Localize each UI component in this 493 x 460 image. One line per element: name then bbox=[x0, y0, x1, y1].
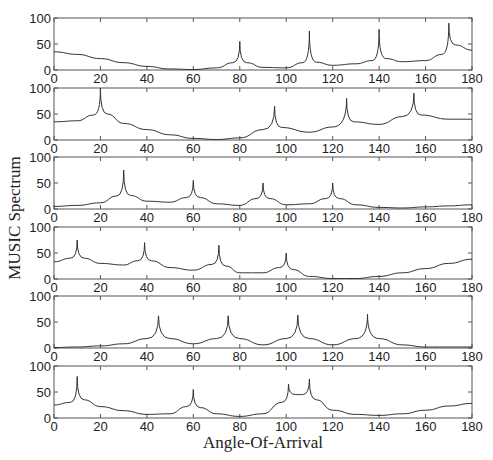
x-tick-label: 0 bbox=[50, 419, 57, 434]
y-tick-label: 50 bbox=[37, 246, 51, 261]
x-tick-label: 20 bbox=[93, 71, 107, 86]
y-axis-label: MUSIC Spectrum bbox=[5, 156, 24, 279]
x-tick-label: 180 bbox=[461, 71, 483, 86]
x-tick-label: 100 bbox=[275, 71, 297, 86]
y-tick-label: 100 bbox=[29, 81, 51, 96]
x-axis-label: Angle-Of-Arrival bbox=[203, 433, 323, 452]
subplot-1: 020406080100120140160180050100 bbox=[29, 11, 483, 86]
subplots: 0204060801001201401601800501000204060801… bbox=[29, 11, 483, 434]
x-tick-label: 180 bbox=[461, 419, 483, 434]
plot-frame bbox=[54, 296, 472, 348]
subplot-4: 020406080100120140160180050100 bbox=[29, 220, 483, 295]
x-tick-label: 140 bbox=[368, 280, 390, 295]
y-tick-label: 0 bbox=[44, 63, 51, 78]
x-tick-label: 80 bbox=[233, 210, 247, 225]
x-tick-label: 0 bbox=[50, 141, 57, 156]
spectrum-curve bbox=[54, 376, 472, 416]
x-tick-label: 140 bbox=[368, 141, 390, 156]
x-tick-label: 20 bbox=[93, 280, 107, 295]
x-tick-label: 180 bbox=[461, 210, 483, 225]
x-tick-label: 60 bbox=[186, 71, 200, 86]
x-tick-label: 160 bbox=[415, 141, 437, 156]
y-tick-label: 0 bbox=[44, 202, 51, 217]
x-tick-label: 140 bbox=[368, 210, 390, 225]
y-tick-label: 100 bbox=[29, 220, 51, 235]
x-tick-label: 160 bbox=[415, 349, 437, 364]
x-tick-label: 160 bbox=[415, 71, 437, 86]
x-tick-label: 180 bbox=[461, 141, 483, 156]
x-tick-label: 40 bbox=[140, 210, 154, 225]
plot-frame bbox=[54, 227, 472, 279]
x-tick-label: 20 bbox=[93, 419, 107, 434]
spectrum-curve bbox=[54, 314, 472, 347]
x-tick-label: 0 bbox=[50, 280, 57, 295]
x-tick-label: 0 bbox=[50, 71, 57, 86]
x-tick-label: 160 bbox=[415, 419, 437, 434]
x-tick-label: 120 bbox=[322, 71, 344, 86]
x-tick-label: 100 bbox=[275, 419, 297, 434]
y-tick-label: 100 bbox=[29, 11, 51, 26]
x-tick-label: 100 bbox=[275, 280, 297, 295]
y-tick-label: 50 bbox=[37, 315, 51, 330]
x-tick-label: 80 bbox=[233, 141, 247, 156]
x-tick-label: 40 bbox=[140, 419, 154, 434]
x-tick-label: 100 bbox=[275, 349, 297, 364]
x-tick-label: 160 bbox=[415, 280, 437, 295]
x-tick-label: 40 bbox=[140, 349, 154, 364]
x-tick-label: 80 bbox=[233, 419, 247, 434]
x-tick-label: 0 bbox=[50, 349, 57, 364]
x-tick-label: 140 bbox=[368, 71, 390, 86]
y-tick-label: 50 bbox=[37, 107, 51, 122]
x-tick-label: 60 bbox=[186, 349, 200, 364]
x-tick-label: 100 bbox=[275, 141, 297, 156]
y-tick-label: 0 bbox=[44, 341, 51, 356]
subplot-5: 020406080100120140160180050100 bbox=[29, 289, 483, 364]
x-tick-label: 120 bbox=[322, 419, 344, 434]
y-tick-label: 0 bbox=[44, 411, 51, 426]
x-tick-label: 140 bbox=[368, 419, 390, 434]
x-tick-label: 40 bbox=[140, 141, 154, 156]
x-tick-label: 60 bbox=[186, 280, 200, 295]
x-tick-label: 80 bbox=[233, 280, 247, 295]
x-tick-label: 120 bbox=[322, 280, 344, 295]
music-spectrum-figure: 0204060801001201401601800501000204060801… bbox=[0, 0, 493, 460]
subplot-2: 020406080100120140160180050100 bbox=[29, 81, 483, 156]
y-tick-label: 0 bbox=[44, 133, 51, 148]
y-tick-label: 50 bbox=[37, 385, 51, 400]
x-tick-label: 180 bbox=[461, 349, 483, 364]
subplot-3: 020406080100120140160180050100 bbox=[29, 150, 483, 225]
y-tick-label: 100 bbox=[29, 359, 51, 374]
x-tick-label: 20 bbox=[93, 349, 107, 364]
y-tick-label: 100 bbox=[29, 150, 51, 165]
x-tick-label: 160 bbox=[415, 210, 437, 225]
y-tick-label: 100 bbox=[29, 289, 51, 304]
y-tick-label: 50 bbox=[37, 37, 51, 52]
spectrum-curve bbox=[54, 88, 472, 140]
x-tick-label: 120 bbox=[322, 210, 344, 225]
spectrum-curve bbox=[54, 170, 472, 208]
spectrum-curve bbox=[54, 23, 472, 69]
x-tick-label: 60 bbox=[186, 141, 200, 156]
x-tick-label: 40 bbox=[140, 71, 154, 86]
x-tick-label: 80 bbox=[233, 71, 247, 86]
x-tick-label: 0 bbox=[50, 210, 57, 225]
x-tick-label: 120 bbox=[322, 349, 344, 364]
x-tick-label: 20 bbox=[93, 210, 107, 225]
x-tick-label: 180 bbox=[461, 280, 483, 295]
y-tick-label: 50 bbox=[37, 176, 51, 191]
x-tick-label: 60 bbox=[186, 419, 200, 434]
x-tick-label: 40 bbox=[140, 280, 154, 295]
x-tick-label: 80 bbox=[233, 349, 247, 364]
x-tick-label: 120 bbox=[322, 141, 344, 156]
y-tick-label: 0 bbox=[44, 272, 51, 287]
subplot-6: 020406080100120140160180050100 bbox=[29, 359, 483, 434]
x-tick-label: 60 bbox=[186, 210, 200, 225]
x-tick-label: 20 bbox=[93, 141, 107, 156]
x-tick-label: 100 bbox=[275, 210, 297, 225]
spectrum-curve bbox=[54, 240, 472, 279]
x-tick-label: 140 bbox=[368, 349, 390, 364]
